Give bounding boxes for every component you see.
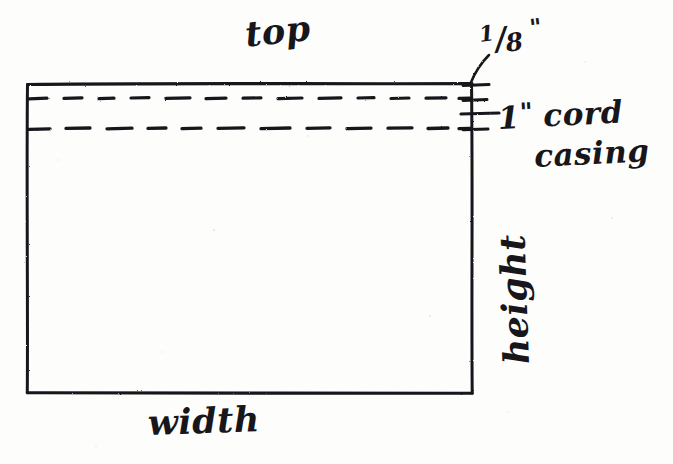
casing-measure-value: 1 — [497, 99, 521, 136]
label-cord-casing-line2: casing — [499, 130, 650, 178]
label-width: width — [147, 398, 260, 443]
seam-allowance-leader — [471, 55, 490, 84]
label-cord-casing-line1: 1" cord — [497, 93, 624, 135]
diagram-canvas: top width height 1 / 8 " 1" cord casing — [0, 0, 673, 464]
hand-drawn-sketch — [0, 0, 673, 464]
casing-inch-mark: " — [519, 97, 532, 127]
casing-stitch-upper — [29, 98, 471, 99]
label-top: top — [243, 7, 312, 55]
dimension-ticks — [461, 85, 499, 130]
fabric-panel-outline — [27, 84, 472, 394]
fraction-denominator: 8 — [504, 27, 525, 58]
casing-stitch-lower — [29, 128, 471, 130]
fraction-one-eighth: 1 / 8 — [478, 20, 526, 52]
label-cord-casing: 1" cord casing — [497, 90, 650, 178]
casing-word-cord: cord — [531, 93, 624, 134]
label-height: height — [491, 234, 537, 365]
